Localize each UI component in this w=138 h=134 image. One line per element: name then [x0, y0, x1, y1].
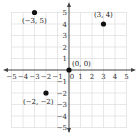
- y-tick: −5: [57, 124, 67, 132]
- x-tick: −3: [29, 73, 39, 81]
- point-label: (0, 0): [72, 60, 91, 68]
- x-tick: 2: [90, 73, 94, 81]
- x-tick: 0: [70, 73, 74, 81]
- point-neg2-neg2: [43, 90, 48, 95]
- point-neg3-5: [32, 10, 37, 15]
- y-tick: −1: [57, 78, 67, 86]
- x-tick: −5: [6, 73, 16, 81]
- point-label: (3, 4): [94, 11, 113, 19]
- y-tick: 1: [63, 55, 67, 63]
- y-arrow-down-icon: [67, 128, 71, 133]
- x-tick: 4: [113, 73, 118, 81]
- point-3-4: [101, 21, 106, 26]
- y-arrow-up-icon: [67, 2, 71, 7]
- y-tick: 4: [63, 21, 68, 29]
- x-tick: 5: [124, 73, 128, 81]
- x-tick: −2: [41, 73, 51, 81]
- y-tick: −2: [57, 90, 67, 98]
- point-label: (−3, 5): [22, 17, 47, 25]
- y-tick: −3: [57, 101, 67, 109]
- x-arrow-right-icon: [131, 68, 136, 72]
- x-tick-labels: −5 −4 −3 −2 −1 0 1 2 3 4 5: [6, 73, 128, 81]
- y-tick: 5: [63, 9, 67, 17]
- x-tick: 3: [101, 73, 105, 81]
- y-tick: 2: [63, 44, 67, 52]
- point-label: (−2, −2): [23, 98, 54, 106]
- y-tick: 3: [63, 32, 67, 40]
- coordinate-plane: −5 −4 −3 −2 −1 0 1 2 3 4 5 5 4 3 2 1 −1 …: [0, 0, 138, 134]
- x-tick: −4: [18, 73, 29, 81]
- x-arrow-left-icon: [3, 68, 8, 72]
- y-tick: −4: [57, 113, 68, 121]
- x-tick: 1: [78, 73, 82, 81]
- point-0-0: [66, 67, 71, 72]
